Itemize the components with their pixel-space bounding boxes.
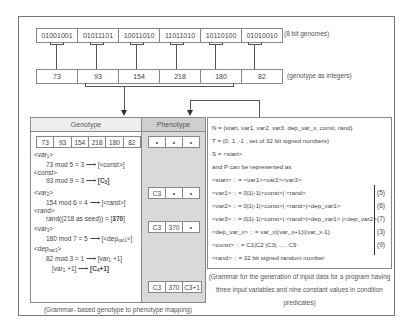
phenotype-cell: C3 (148, 187, 166, 199)
genotype-title: Genotype (31, 118, 141, 132)
phenotype-row: • • • (149, 136, 200, 148)
arrow-right-icon: ⟶ (90, 199, 100, 206)
genome-cell: 01010010 (241, 28, 283, 43)
phenotype-cell: 370 (165, 221, 183, 233)
bracket (130, 42, 144, 45)
step-label: <const> (34, 169, 141, 177)
phenotype-panel: Phenotype • • • C3 • • C3 370 • C3 370 C… (141, 117, 206, 303)
grammar-panel: N = {start, var1, var2, var3, dep_var_x,… (207, 117, 392, 269)
phenotype-cell: • (182, 136, 200, 148)
arrow-down-icon (187, 110, 193, 116)
phenotype-cell: • (182, 221, 200, 233)
step-label: <rand> (34, 207, 141, 215)
connector-line (176, 45, 177, 69)
step-expression: rand((218 as seed)) = [370] (34, 215, 141, 223)
grammar-line: S = <start> (212, 147, 387, 160)
phenotype-row: C3 • • (149, 187, 200, 199)
genome-cell: 01011101 (77, 28, 119, 43)
connector-line (56, 45, 57, 69)
phenotype-cell: C3 (148, 221, 166, 233)
arrow-right-icon: ⟶ (90, 235, 100, 242)
grammar-rule: <const> :: = C1|C2 |C3| ..... C9(9) (212, 238, 387, 251)
phenotype-cell: C3 (148, 281, 166, 293)
grammar-line: <start> :: = <var1><var2><var3> (212, 173, 387, 186)
connector-line (215, 45, 216, 69)
arrow-right-icon: ⟶ (86, 161, 96, 168)
genotype-integers-row: 73 93 154 218 180 82 (37, 69, 283, 84)
connector-line (259, 100, 260, 117)
grammar-rule: <var2> :: = 0|1|-1|<const>| <rand>|<dep_… (212, 199, 387, 212)
connector-line (190, 100, 260, 101)
grammar-caption: (Grammar for the generation of input dat… (207, 270, 392, 309)
genome-cell: 10110100 (200, 28, 242, 43)
arrow-right-icon: ⟶ (78, 265, 88, 272)
bracket (90, 42, 104, 45)
step-label: <var2> (34, 189, 141, 199)
genome-cell: 01001001 (36, 28, 78, 43)
phenotype-cell: • (165, 187, 183, 199)
integer-cell: 180 (200, 69, 242, 84)
integer-cell: 154 (118, 69, 160, 84)
step-expression: 82 mod 3 = 1 ⟶ [var1 +1] (34, 255, 141, 265)
genotype-value-cell: 180 (105, 136, 123, 148)
integer-cell: 93 (77, 69, 119, 84)
connector-line (136, 45, 137, 69)
bracket (170, 42, 184, 45)
rule-count-bar (374, 185, 375, 255)
integer-cell: 73 (36, 69, 78, 84)
grammar-line: N = {start, var1, var2, var3, dep_var_x,… (212, 121, 387, 134)
step-expression: 93 mod 9 = 3 ⟶ [C3] (34, 177, 141, 187)
arrow-right-icon: ⟶ (86, 177, 96, 184)
genotype-values-row: 73 93 154 218 180 82 (37, 136, 141, 148)
integers-note: (genotype as integers) (287, 72, 352, 79)
genotype-caption: (Grammar- based genotype to phenotype ma… (30, 303, 206, 316)
bracket (85, 83, 234, 87)
grammar-rule: <var1> :: = 0|1|-1|<const>| <rand>(5) (212, 186, 387, 199)
grammar-line: T = {0, 1 ,-1 , set of 32 bit signed num… (212, 134, 387, 147)
bracket (209, 42, 223, 45)
genotype-value-cell: 82 (123, 136, 141, 148)
genotype-panel: Genotype 73 93 154 218 180 82 <var1> 73 … (30, 117, 142, 303)
genotype-value-cell: 154 (71, 136, 89, 148)
step-expression: [var1 +1] ⟶ [C4+1] (34, 265, 141, 275)
integer-cell: 218 (159, 69, 201, 84)
genome-bits-row: 01001001 01011101 10011010 11011010 1011… (37, 28, 283, 43)
step-label: <var3> (34, 225, 141, 235)
phenotype-cell: • (182, 187, 200, 199)
connector-line (254, 45, 255, 69)
phenotype-row: C3 370 • (149, 221, 200, 233)
phenotype-cell: • (165, 136, 183, 148)
bracket (248, 42, 262, 45)
step-label: <var1> (34, 151, 141, 161)
grammar-line: <rand> :: = 32 bit signed random number (212, 251, 387, 264)
phenotype-cell: • (148, 136, 166, 148)
grammar-line: and P can be represented as (212, 160, 387, 173)
connector-line (96, 45, 97, 69)
step-label: <depvar1> (34, 245, 141, 255)
phenotype-cell: C3+1 (182, 281, 202, 293)
genotype-value-cell: 93 (53, 136, 71, 148)
genome-cell: 11011010 (159, 28, 201, 43)
genome-cell: 10011010 (118, 28, 160, 43)
integer-cell: 82 (241, 69, 283, 84)
genotype-value-cell: 218 (88, 136, 106, 148)
phenotype-row: C3 370 C3+1 (149, 281, 202, 293)
phenotype-title: Phenotype (142, 118, 205, 132)
phenotype-cell: 370 (165, 281, 183, 293)
bracket (50, 42, 64, 45)
arrow-down-icon (121, 110, 127, 116)
genome-note: (8 bit genomes) (284, 30, 329, 37)
step-expression: 154 mod 6 = 4 ⟶ [<rand>] (34, 199, 141, 207)
step-expression: 73 mod 5 = 3 ⟶ [<const>] (34, 161, 141, 169)
arrow-right-icon: ⟶ (86, 255, 96, 262)
grammar-rule: <var3> :: = 0|1|-1|<const>| <rand>|<dep_… (212, 212, 387, 225)
genotype-value-cell: 73 (36, 136, 54, 148)
connector-line (124, 87, 125, 111)
step-expression: 180 mod 7 = 5 ⟶ [<depvar1>] (34, 235, 141, 245)
grammar-rule: <dep_var_x> :: = var_x|(var_x+1)|(var_x-… (212, 225, 387, 238)
